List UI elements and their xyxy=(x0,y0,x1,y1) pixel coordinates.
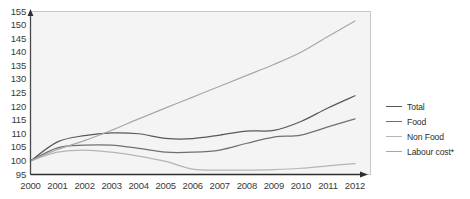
x-tick-label: 2010 xyxy=(286,180,316,191)
y-tick-label: 105 xyxy=(0,142,26,152)
x-tick-label: 2006 xyxy=(178,180,208,191)
y-tick-label: 145 xyxy=(0,34,26,44)
legend-item[interactable]: Total xyxy=(386,99,470,114)
legend-label: Non Food xyxy=(407,132,444,142)
x-tick-label: 2001 xyxy=(43,180,73,191)
legend-item[interactable]: Non Food xyxy=(386,129,470,144)
x-tick-label: 2004 xyxy=(124,180,154,191)
x-tick-label: 2009 xyxy=(259,180,289,191)
legend-swatch-icon xyxy=(386,121,402,122)
y-tick-label: 140 xyxy=(0,47,26,57)
x-tick-label: 2007 xyxy=(205,180,235,191)
legend-label: Food xyxy=(407,117,426,127)
line-chart: 15515014514013513012512011511010510095 2… xyxy=(0,0,470,199)
y-tick-label: 130 xyxy=(0,74,26,84)
y-tick-label: 120 xyxy=(0,102,26,112)
x-tick-label: 2005 xyxy=(151,180,181,191)
y-tick-label: 100 xyxy=(0,156,26,166)
y-tick-label: 115 xyxy=(0,115,26,125)
x-tick-label: 2000 xyxy=(16,180,46,191)
y-tick-label: 155 xyxy=(0,7,26,17)
y-tick-label: 125 xyxy=(0,88,26,98)
x-tick-label: 2002 xyxy=(70,180,100,191)
legend-swatch-icon xyxy=(386,151,402,152)
x-tick-label: 2011 xyxy=(313,180,343,191)
legend-swatch-icon xyxy=(386,106,402,107)
y-tick-label: 110 xyxy=(0,129,26,139)
x-tick-label: 2012 xyxy=(340,180,370,191)
x-tick-label: 2008 xyxy=(232,180,262,191)
x-tick-label: 2003 xyxy=(97,180,127,191)
legend-label: Labour cost* xyxy=(407,147,454,157)
legend-swatch-icon xyxy=(386,136,402,137)
legend-label: Total xyxy=(407,102,425,112)
legend-item[interactable]: Food xyxy=(386,114,470,129)
y-tick-label: 95 xyxy=(0,170,26,180)
chart-legend: TotalFoodNon FoodLabour cost* xyxy=(386,99,470,159)
y-tick-label: 135 xyxy=(0,61,26,71)
y-tick-label: 150 xyxy=(0,20,26,30)
legend-item[interactable]: Labour cost* xyxy=(386,144,470,159)
